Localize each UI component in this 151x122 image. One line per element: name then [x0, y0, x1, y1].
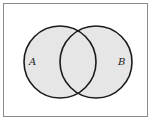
set-a-label: A [28, 56, 36, 67]
set-b-label: B [117, 56, 125, 67]
venn-diagram: A B [0, 0, 151, 122]
